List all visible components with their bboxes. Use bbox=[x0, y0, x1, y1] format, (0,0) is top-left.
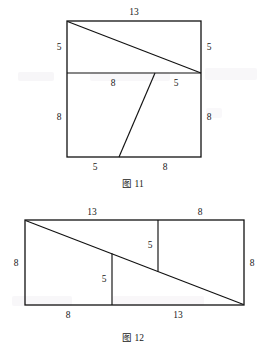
figure-12-right-vertical-label: 5 bbox=[148, 240, 153, 250]
figure-12-bottom-right-label: 13 bbox=[173, 310, 183, 320]
figure-11-top-label: 13 bbox=[129, 7, 139, 17]
figure-11-divider-left-label: 8 bbox=[111, 78, 116, 88]
figure-12-top-right-label: 8 bbox=[198, 207, 203, 217]
figure-11: 13 5 5 8 5 8 8 5 8 图 11 bbox=[0, 0, 266, 192]
figure-12-main-diagonal bbox=[26, 221, 244, 305]
figure-11-outer-square bbox=[67, 21, 201, 157]
figure-11-bottom-left-label: 5 bbox=[93, 162, 98, 172]
figure-11-lower-slant bbox=[119, 73, 155, 157]
figure-11-upper-diagonal bbox=[68, 22, 202, 74]
figure-11-bottom-right-label: 8 bbox=[163, 162, 168, 172]
figure-12-bottom-left-label: 8 bbox=[66, 310, 71, 320]
figure-11-divider-right-label: 5 bbox=[174, 78, 179, 88]
figure-11-lower-right-label: 8 bbox=[207, 112, 212, 122]
figure-12: 13 8 8 8 5 5 8 13 图 12 bbox=[0, 192, 266, 352]
figure-12-right-side-label: 8 bbox=[250, 258, 255, 268]
page-canvas: 13 5 5 8 5 8 8 5 8 图 11 13 8 8 8 5 5 8 1… bbox=[0, 0, 266, 352]
figure-11-upper-left-label: 5 bbox=[57, 42, 62, 52]
figure-12-caption: 图 12 bbox=[122, 333, 144, 344]
figure-12-left-vertical-label: 5 bbox=[102, 274, 107, 284]
figure-12-left-side-label: 8 bbox=[14, 258, 19, 268]
figure-12-drawing bbox=[0, 192, 266, 352]
figure-11-upper-right-label: 5 bbox=[207, 42, 212, 52]
figure-11-caption: 图 11 bbox=[122, 179, 144, 190]
figure-11-drawing bbox=[0, 0, 266, 192]
figure-11-lower-left-label: 8 bbox=[57, 112, 62, 122]
figure-12-top-left-label: 13 bbox=[87, 207, 97, 217]
